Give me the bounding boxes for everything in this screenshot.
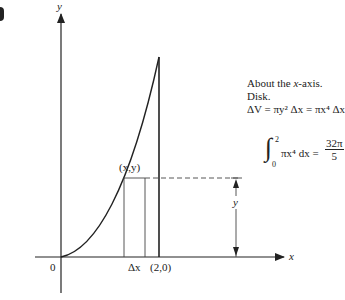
endpoint-label: (2,0) — [150, 262, 171, 273]
height-label: y — [233, 196, 238, 209]
integral-sign: ∫ — [265, 135, 272, 161]
result-numerator: 32π — [325, 137, 344, 150]
y-axis-label: y — [57, 1, 62, 12]
integrand: πx⁴ dx = — [281, 147, 319, 159]
method-annotation: About the x-axis. Disk. ΔV = πy² Δx = πx… — [247, 77, 345, 116]
method-name-text: Disk. — [247, 90, 345, 103]
integral-lower-limit: 0 — [272, 160, 276, 169]
parabola-curve — [61, 57, 159, 257]
x-axis-label: x — [289, 251, 294, 262]
axis-of-rotation-text: About the x-axis. — [247, 77, 345, 90]
volume-element-formula: ΔV = πy² Δx = πx⁴ Δx — [247, 103, 345, 116]
origin-label: 0 — [50, 262, 56, 273]
result-denominator: 5 — [325, 150, 344, 162]
curve-point-label: (x,y) — [119, 162, 140, 173]
integral-upper-limit: 2 — [275, 135, 279, 144]
integral-result: 32π 5 — [325, 137, 344, 162]
delta-x-label: Δx — [128, 262, 141, 273]
